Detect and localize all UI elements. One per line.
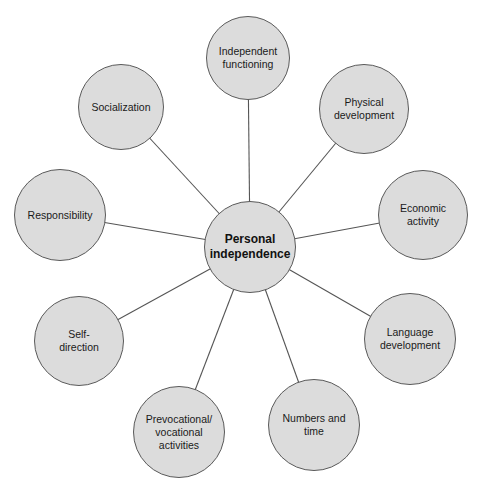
node-socialization-label: Socialization [86, 101, 157, 114]
node-self-direction-label: Self- direction [53, 328, 105, 354]
node-independent-functioning: Independent functioning [206, 16, 290, 100]
node-economic-activity: Economic activity [378, 170, 468, 260]
node-economic-activity-label: Economic activity [394, 202, 452, 228]
node-prevocational-vocational-activities-label: Prevocational/ vocational activities [140, 413, 219, 452]
node-self-direction: Self- direction [34, 296, 124, 386]
node-personal-independence: Personal independence [204, 201, 296, 293]
node-prevocational-vocational-activities: Prevocational/ vocational activities [133, 386, 225, 478]
node-responsibility: Responsibility [14, 169, 106, 261]
node-socialization: Socialization [78, 64, 164, 150]
node-responsibility-label: Responsibility [22, 209, 99, 222]
node-language-development: Language development [364, 293, 456, 385]
node-physical-development-label: Physical development [328, 96, 400, 122]
node-numbers-and-time-label: Numbers and time [276, 412, 351, 438]
node-language-development-label: Language development [374, 326, 446, 352]
node-independent-functioning-label: Independent functioning [213, 45, 283, 71]
node-personal-independence-label: Personal independence [204, 232, 297, 262]
node-physical-development: Physical development [319, 64, 409, 154]
node-numbers-and-time: Numbers and time [268, 379, 360, 471]
